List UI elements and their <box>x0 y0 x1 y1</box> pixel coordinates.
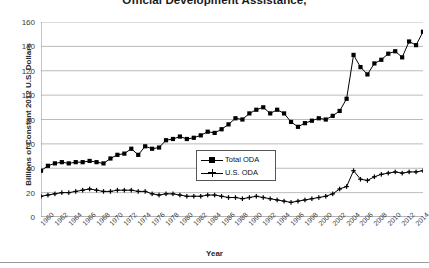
data-point-marker <box>164 138 168 142</box>
data-point-marker <box>94 160 98 164</box>
data-point-marker <box>282 111 286 115</box>
data-point-marker <box>87 187 92 192</box>
data-point-marker <box>199 133 203 137</box>
data-point-marker <box>289 120 293 124</box>
data-point-marker <box>129 147 133 151</box>
data-point-marker <box>198 194 203 199</box>
data-point-marker <box>400 55 404 59</box>
data-point-marker <box>73 189 78 194</box>
legend-label-total-oda: Total ODA <box>223 155 259 164</box>
data-point-marker <box>379 58 383 62</box>
legend-label-us-oda: U.S. ODA <box>223 168 258 177</box>
data-point-marker <box>351 53 355 57</box>
data-point-marker <box>358 65 362 69</box>
y-tick-label: 60 <box>26 139 35 148</box>
data-point-marker <box>46 193 51 198</box>
data-point-marker <box>372 174 377 179</box>
data-point-marker <box>41 194 43 199</box>
data-point-marker <box>323 194 328 199</box>
data-point-marker <box>226 195 231 200</box>
data-point-marker <box>185 194 190 199</box>
data-point-marker <box>386 171 391 176</box>
data-point-marker <box>143 189 148 194</box>
data-point-marker <box>185 137 189 141</box>
data-point-marker <box>414 43 418 47</box>
data-point-marker <box>219 127 223 131</box>
footer-divider <box>0 262 429 263</box>
data-point-marker <box>171 137 175 141</box>
data-point-marker <box>338 109 342 113</box>
data-point-marker <box>289 200 294 205</box>
data-point-marker <box>233 116 237 120</box>
data-point-marker <box>345 97 349 101</box>
data-point-marker <box>150 147 154 151</box>
plot-svg <box>41 22 423 217</box>
data-point-marker <box>254 194 259 199</box>
data-point-marker <box>60 190 65 195</box>
y-tick-label: 160 <box>22 18 35 27</box>
data-point-marker <box>206 130 210 134</box>
data-point-marker <box>407 39 411 43</box>
legend-square-marker-icon <box>201 155 223 165</box>
data-point-marker <box>240 117 244 121</box>
data-point-marker <box>157 193 162 198</box>
data-point-marker <box>46 164 50 168</box>
data-point-marker <box>365 72 369 76</box>
data-point-marker <box>108 189 113 194</box>
y-tick-label: 40 <box>26 164 35 173</box>
data-point-marker <box>296 199 301 204</box>
data-point-marker <box>136 153 140 157</box>
y-tick-label: 100 <box>22 91 35 100</box>
chart-legend: Total ODA U.S. ODA <box>196 150 276 181</box>
data-point-marker <box>213 131 217 135</box>
data-point-marker <box>310 196 315 201</box>
data-point-marker <box>365 178 370 183</box>
data-point-marker <box>66 190 71 195</box>
data-point-marker <box>157 145 161 149</box>
data-point-marker <box>275 198 280 203</box>
legend-plus-marker-icon <box>201 168 223 178</box>
data-point-marker <box>268 196 273 201</box>
data-point-marker <box>53 192 58 197</box>
data-point-marker <box>41 169 43 173</box>
data-point-marker <box>324 117 328 121</box>
data-point-marker <box>150 192 155 197</box>
data-point-marker <box>261 105 265 109</box>
data-point-marker <box>372 61 376 65</box>
data-point-marker <box>115 153 119 157</box>
legend-item-total-oda: Total ODA <box>197 153 275 166</box>
data-point-marker <box>275 108 279 112</box>
chart-title: Official Development Assistance, <box>0 0 429 6</box>
data-point-marker <box>240 196 245 201</box>
data-point-marker <box>310 119 314 123</box>
y-tick-label: 120 <box>22 66 35 75</box>
data-point-marker <box>88 159 92 163</box>
data-point-marker <box>101 161 105 165</box>
data-point-marker <box>171 192 176 197</box>
y-tick-label: 80 <box>26 115 35 124</box>
y-tick-label: 20 <box>26 188 35 197</box>
data-point-marker <box>379 172 384 177</box>
data-point-marker <box>331 114 335 118</box>
data-point-marker <box>192 194 197 199</box>
data-point-marker <box>393 170 398 175</box>
data-point-marker <box>136 189 141 194</box>
data-point-marker <box>212 193 217 198</box>
data-point-marker <box>81 160 85 164</box>
data-point-marker <box>53 161 57 165</box>
data-point-marker <box>129 188 134 193</box>
data-point-marker <box>414 170 419 175</box>
data-point-marker <box>303 121 307 125</box>
data-point-marker <box>393 49 397 53</box>
data-point-marker <box>317 116 321 120</box>
data-point-marker <box>101 189 106 194</box>
x-axis-title: Year <box>0 249 429 258</box>
data-point-marker <box>205 193 210 198</box>
data-point-marker <box>67 161 71 165</box>
data-point-marker <box>233 195 238 200</box>
data-point-marker <box>226 122 230 126</box>
data-point-marker <box>219 194 224 199</box>
data-point-marker <box>344 184 349 189</box>
data-point-marker <box>261 195 266 200</box>
data-point-marker <box>60 160 64 164</box>
